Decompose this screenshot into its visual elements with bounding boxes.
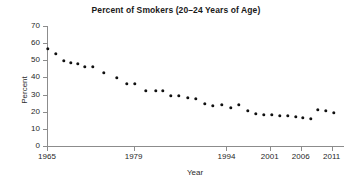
data-point-marker [102,71,105,74]
x-axis-tick [226,147,227,151]
data-point-marker [46,47,49,50]
data-point-marker [286,114,289,117]
data-point-marker [161,89,164,92]
x-axis-line [47,146,344,147]
data-point-marker [254,112,257,115]
data-point-marker [115,76,118,79]
data-point-marker [177,94,180,97]
data-point-marker [246,109,249,112]
data-point-marker [154,89,157,92]
data-point-marker [62,59,65,62]
x-axis-tick [332,147,333,151]
data-point-marker [186,96,189,99]
data-point-marker [76,62,79,65]
y-axis-tick-label: 0 [14,141,40,150]
x-axis-tick-label: 1994 [206,152,246,161]
data-point-marker [211,104,214,107]
data-point-marker [294,115,297,118]
x-axis-tick [270,147,271,151]
plot-area [47,26,344,146]
x-axis-tick-label: 1965 [27,152,67,161]
data-point-marker [133,82,136,85]
chart-title: Percent of Smokers (20–24 Years of Age) [0,5,352,15]
data-point-marker [262,113,265,116]
data-point-marker [332,111,335,114]
x-axis-tick-label: 1979 [114,152,154,161]
data-point-marker [309,117,312,120]
y-axis-tick-label: 10 [14,124,40,133]
y-axis-tick-label: 40 [14,72,40,81]
data-point-marker [237,103,240,106]
x-axis-tick [134,147,135,151]
data-point-marker [125,82,128,85]
chart-screenshot: Percent of Smokers (20–24 Years of Age) … [0,0,352,185]
data-point-marker [83,65,86,68]
data-point-marker [316,108,319,111]
y-axis-title: Percent [6,0,15,60]
data-point-marker [220,103,223,106]
y-axis-tick-label: 20 [14,107,40,116]
data-point-marker [203,102,206,105]
data-point-marker [194,97,197,100]
data-point-marker [278,114,281,117]
data-point-marker [324,109,327,112]
data-point-marker [229,106,232,109]
x-axis-tick [47,147,48,151]
data-point-marker [144,89,147,92]
data-point-marker [54,52,57,55]
data-point-marker [69,61,72,64]
y-axis-tick-label: 70 [14,21,40,30]
data-point-marker [169,94,172,97]
y-axis-tick-label: 50 [14,55,40,64]
data-point-marker [91,65,94,68]
data-point-marker [301,116,304,119]
x-axis-tick-label: 2011 [312,152,352,161]
data-point-marker [270,113,273,116]
y-axis-tick-label: 30 [14,90,40,99]
y-axis-tick-label: 60 [14,38,40,47]
x-axis-tick [301,147,302,151]
x-axis-title: Year [46,168,344,177]
